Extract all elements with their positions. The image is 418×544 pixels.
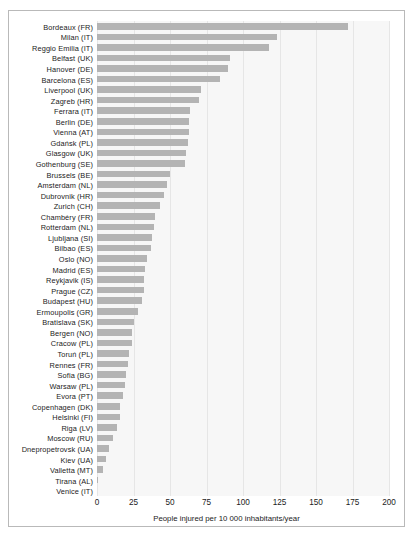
bar-row: Vienna (AT): [97, 128, 397, 138]
bar: [97, 361, 128, 368]
bar-category-label: Glasgow (UK): [46, 149, 93, 158]
bar-category-label: Ermoupolis (GR): [36, 307, 93, 316]
bar-category-label: Chambéry (FR): [41, 212, 93, 221]
bar-row: Bilbao (ES): [97, 244, 397, 254]
bar-row: Toruń (PL): [97, 349, 397, 359]
x-tick-label: 175: [346, 498, 360, 507]
bar-category-label: Brussels (BE): [47, 170, 93, 179]
bar-row: Amsterdam (NL): [97, 180, 397, 190]
bar-category-label: Zurich (CH): [54, 202, 93, 211]
bar-category-label: Sofia (BG): [58, 371, 94, 380]
bar-row: Milan (IT): [97, 33, 397, 43]
bar: [97, 129, 189, 136]
bar: [97, 192, 164, 199]
bar: [97, 76, 220, 83]
bar-category-label: Bilbao (ES): [55, 244, 93, 253]
bar-category-label: Zagreb (HR): [51, 96, 93, 105]
bar-row: Tirana (AL): [97, 476, 397, 486]
bar-row: Bratislava (SK): [97, 318, 397, 328]
plot-area: Bordeaux (FR)Milan (IT)Reggio Emilia (IT…: [97, 21, 397, 496]
x-axis-label: People injured per 10 000 inhabitants/ye…: [9, 514, 404, 523]
bar: [97, 181, 167, 188]
bar: [97, 23, 348, 30]
bar: [97, 44, 269, 51]
bar-row: Ferrara (IT): [97, 106, 397, 116]
bar-row: Glasgow (UK): [97, 149, 397, 159]
bar-category-label: Valletta (MT): [50, 466, 93, 475]
bar-row: Belfast (UK): [97, 54, 397, 64]
bar-row: Berlin (DE): [97, 117, 397, 127]
bar-row: Ermoupolis (GR): [97, 307, 397, 317]
chart-figure: Bordeaux (FR)Milan (IT)Reggio Emilia (IT…: [8, 10, 405, 527]
x-axis-label-text: People injured per 10 000 inhabitants/ye…: [113, 514, 300, 523]
bar: [97, 86, 201, 93]
bar-category-label: Barcelona (ES): [41, 75, 93, 84]
bar-row: Helsinki (FI): [97, 413, 397, 423]
bar-row: Zurich (CH): [97, 201, 397, 211]
bar: [97, 202, 160, 209]
x-axis-ticks: 0255075100125150175200: [97, 498, 397, 512]
bar-category-label: Bergen (NO): [50, 328, 93, 337]
bar-row: Warsaw (PL): [97, 381, 397, 391]
x-tick-label: 100: [236, 498, 250, 507]
bar-category-label: Evora (PT): [56, 392, 93, 401]
bar-row: Hanover (DE): [97, 64, 397, 74]
bar-row: Cracow (PL): [97, 339, 397, 349]
bar-row: Dubrovnik (HR): [97, 191, 397, 201]
bar-row: Moscow (RU): [97, 434, 397, 444]
bar: [97, 65, 228, 72]
bar: [97, 350, 129, 357]
bar-row: Liverpool (UK): [97, 85, 397, 95]
bar-category-label: Amsterdam (NL): [37, 181, 93, 190]
bar-category-label: Berlin (DE): [56, 117, 93, 126]
bar-category-label: Vienna (AT): [53, 128, 93, 137]
bar-category-label: Gothenburg (SE): [36, 160, 93, 169]
bar-category-label: Reykjavik (IS): [46, 276, 93, 285]
x-tick-label: 25: [129, 498, 138, 507]
bar-category-label: Ljubljana (SI): [48, 233, 93, 242]
bar: [97, 234, 152, 241]
x-tick-label: 150: [309, 498, 323, 507]
bar-category-label: Warsaw (PL): [49, 381, 93, 390]
bar-row: Rotterdam (NL): [97, 223, 397, 233]
bar-row: Madrid (ES): [97, 265, 397, 275]
bar: [97, 160, 185, 167]
bar-category-label: Prague (CZ): [51, 286, 93, 295]
bar-category-label: Belfast (UK): [52, 54, 93, 63]
bar-row: Sofia (BG): [97, 370, 397, 380]
bar: [97, 403, 120, 410]
bar-row: Chambéry (FR): [97, 212, 397, 222]
bar-category-label: Copenhagen (DK): [32, 402, 93, 411]
bar-category-label: Reggio Emilia (IT): [32, 43, 93, 52]
bar-category-label: Liverpool (UK): [44, 86, 93, 95]
bar-category-label: Toruń (PL): [57, 350, 93, 359]
bar: [97, 287, 144, 294]
bar-row: Gothenburg (SE): [97, 159, 397, 169]
bar: [97, 171, 170, 178]
bar-row: Oslo (NO): [97, 254, 397, 264]
bar: [97, 276, 144, 283]
bar-category-label: Bratislava (SK): [42, 318, 93, 327]
bar-category-label: Cracow (PL): [51, 339, 93, 348]
bar-row: Zagreb (HR): [97, 96, 397, 106]
bar-row: Ljubljana (SI): [97, 233, 397, 243]
bar-row: Venice (IT): [97, 486, 397, 496]
x-tick-label: 50: [165, 498, 174, 507]
bar-category-label: Hanover (DE): [47, 65, 93, 74]
bar: [97, 392, 123, 399]
bar-row: Valletta (MT): [97, 465, 397, 475]
bar: [97, 34, 277, 41]
bar-category-label: Gdańsk (PL): [50, 138, 93, 147]
bar-row: Bergen (NO): [97, 328, 397, 338]
bar-row: Kiev (UA): [97, 455, 397, 465]
bar: [97, 340, 132, 347]
bar-row: Brussels (BE): [97, 170, 397, 180]
bar: [97, 445, 109, 452]
bar-category-label: Kiev (UA): [60, 455, 93, 464]
bar: [97, 245, 151, 252]
bar: [97, 466, 103, 473]
bar-category-label: Venice (IT): [56, 487, 93, 496]
bar: [97, 150, 186, 157]
x-tick-label: 75: [202, 498, 211, 507]
bar-category-label: Oslo (NO): [59, 255, 93, 264]
